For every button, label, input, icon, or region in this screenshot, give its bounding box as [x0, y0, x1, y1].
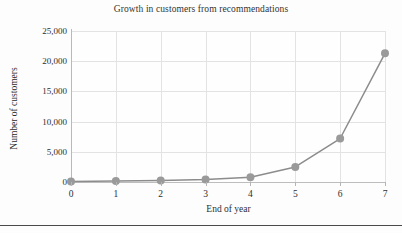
x-tick-mark: [206, 182, 207, 186]
x-tick-mark: [385, 182, 386, 186]
chart-figure: Growth in customers from recommendations…: [0, 0, 402, 233]
data-point-marker: [291, 163, 299, 171]
data-series-line: [0, 0, 402, 233]
data-point-marker: [246, 173, 254, 181]
x-tick-mark: [340, 182, 341, 186]
x-tick-mark: [116, 182, 117, 186]
x-tick-mark: [161, 182, 162, 186]
x-tick-mark: [71, 182, 72, 186]
data-point-marker: [336, 135, 344, 143]
x-tick-mark: [295, 182, 296, 186]
data-point-marker: [381, 49, 389, 57]
series-markers: [67, 49, 389, 185]
bottom-rule: [0, 225, 402, 226]
series-polyline: [71, 53, 385, 181]
x-tick-mark: [250, 182, 251, 186]
